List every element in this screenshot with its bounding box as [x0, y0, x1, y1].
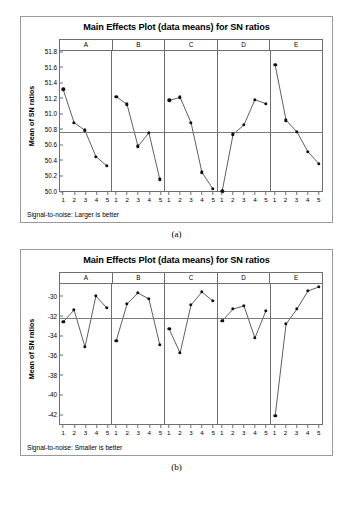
x-tick-mark: [190, 192, 191, 195]
x-tick-mark: [232, 425, 233, 428]
x-tick-label: 5: [317, 425, 320, 436]
x-tick-mark: [213, 192, 214, 195]
grand-mean-line: [165, 318, 217, 319]
x-tick-mark: [307, 425, 308, 428]
x-tick-text: 5: [106, 429, 109, 436]
x-tick-label: 4: [200, 425, 203, 436]
x-tick-mark: [107, 425, 108, 428]
factor-header-d-a: D: [218, 40, 271, 50]
x-tick-text: 4: [95, 196, 98, 203]
x-tick-text: 2: [125, 429, 128, 436]
panels-row-a: [59, 50, 323, 192]
x-tick-text: 3: [295, 196, 298, 203]
x-tick-text: 3: [136, 429, 139, 436]
x-tick-text: 2: [178, 429, 181, 436]
x-tick-mark: [202, 425, 203, 428]
x-tick-label: 3: [242, 425, 245, 436]
x-tick-label: 2: [178, 192, 181, 203]
x-tick-mark: [63, 192, 64, 195]
chart-title-a: Main Effects Plot (data means) for SN ra…: [21, 22, 332, 32]
factor-panel-d-b: [218, 283, 271, 425]
x-tick-text: 5: [211, 429, 214, 436]
y-tick-label: 51.6: [45, 63, 60, 70]
x-tick-text: 5: [264, 196, 267, 203]
y-tick-label: 50.4: [45, 156, 60, 163]
x-tick-label: 4: [306, 425, 309, 436]
x-tick-label: 5: [264, 425, 267, 436]
x-tick-mark: [243, 192, 244, 195]
y-tick-label: 51.8: [45, 48, 60, 55]
factor-panel-b-b: [112, 283, 165, 425]
x-tick-mark: [116, 192, 117, 195]
x-tick-text: 3: [242, 196, 245, 203]
x-tick-label: 1: [220, 425, 223, 436]
x-tick-text: 5: [264, 429, 267, 436]
x-tick-mark: [232, 192, 233, 195]
factor-header-e-a: E: [270, 40, 322, 50]
x-tick-label: 2: [284, 425, 287, 436]
x-tick-text: 1: [167, 429, 170, 436]
x-tick-mark: [168, 192, 169, 195]
x-tick-label: 4: [95, 192, 98, 203]
x-tick-text: 5: [317, 429, 320, 436]
x-tick-label: 1: [273, 425, 276, 436]
x-ticks-b: 1234512345123451234512345: [59, 425, 323, 438]
x-tick-label: 3: [136, 192, 139, 203]
grand-mean-line: [112, 132, 164, 133]
plot-area-a: Mean of SN ratios ABCDE 50.050.250.450.6…: [59, 39, 323, 192]
x-tick-text: 2: [73, 429, 76, 436]
x-tick-mark: [116, 425, 117, 428]
x-tick-label: 3: [84, 192, 87, 203]
x-tick-text: 1: [114, 429, 117, 436]
x-tick-label: 4: [148, 425, 151, 436]
x-ticks-a: 1234512345123451234512345: [59, 192, 323, 205]
x-tick-mark: [85, 192, 86, 195]
grand-mean-line: [165, 132, 217, 133]
x-tick-label: 1: [61, 425, 64, 436]
x-tick-mark: [168, 425, 169, 428]
x-tick-text: 3: [84, 196, 87, 203]
footnote-b: Signal-to-noise: Smaller is better: [27, 444, 122, 451]
series-line-b-a: [112, 50, 164, 192]
x-tick-mark: [96, 425, 97, 428]
x-tick-label: 2: [231, 192, 234, 203]
grand-mean-line: [59, 132, 111, 133]
x-tick-label: 4: [95, 425, 98, 436]
factor-header-a-a: A: [60, 40, 113, 50]
x-tick-mark: [265, 192, 266, 195]
y-tick-label: 50.0: [45, 188, 60, 195]
x-tick-text: 4: [200, 196, 203, 203]
x-tick-text: 4: [95, 429, 98, 436]
series-line-e-b: [271, 283, 323, 425]
x-tick-label: 1: [273, 192, 276, 203]
x-tick-text: 4: [148, 196, 151, 203]
factor-header-b-b: B: [113, 273, 166, 283]
x-tick-text: 1: [273, 196, 276, 203]
y-axis-label-b: Mean of SN ratios: [27, 318, 36, 379]
x-tick-mark: [307, 192, 308, 195]
x-tick-label: 1: [220, 192, 223, 203]
x-tick-mark: [179, 192, 180, 195]
x-tick-label: 5: [106, 425, 109, 436]
x-tick-label: 1: [114, 192, 117, 203]
x-tick-mark: [138, 425, 139, 428]
x-tick-label: 2: [73, 192, 76, 203]
x-tick-label: 2: [231, 425, 234, 436]
x-tick-label: 4: [253, 425, 256, 436]
x-tick-mark: [85, 425, 86, 428]
grand-mean-line: [218, 318, 270, 319]
x-tick-mark: [318, 192, 319, 195]
x-tick-mark: [296, 192, 297, 195]
x-tick-label: 3: [242, 192, 245, 203]
x-tick-text: 5: [159, 196, 162, 203]
footnote-a: Signal-to-noise: Larger is better: [27, 211, 119, 218]
y-tick-label: 51.2: [45, 94, 60, 101]
grand-mean-line: [271, 318, 323, 319]
x-tick-mark: [149, 192, 150, 195]
x-tick-label: 3: [84, 425, 87, 436]
x-tick-mark: [96, 192, 97, 195]
figure-stack: Main Effects Plot (data means) for SN ra…: [0, 0, 353, 506]
x-tick-text: 3: [295, 429, 298, 436]
x-tick-label: 4: [306, 192, 309, 203]
x-tick-mark: [213, 425, 214, 428]
